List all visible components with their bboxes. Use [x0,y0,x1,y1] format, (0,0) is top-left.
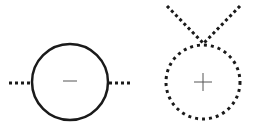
right-crossing-dotted-line [203,6,240,44]
diagram-canvas [0,0,254,127]
solid-circle [32,44,108,120]
negative-symbol [9,44,131,120]
positive-symbol [166,6,240,119]
left-crossing-dotted-line [167,6,204,44]
